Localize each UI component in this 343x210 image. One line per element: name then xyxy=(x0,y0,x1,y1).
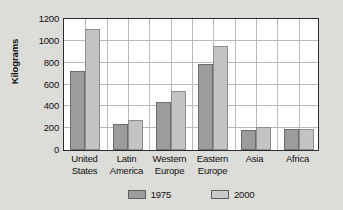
legend-label: 2000 xyxy=(234,189,254,200)
bar-asia-2000 xyxy=(256,127,271,150)
bar-latin-america-1975 xyxy=(113,124,128,150)
legend-label: 1975 xyxy=(151,189,171,200)
legend-item-2000[interactable]: 2000 xyxy=(211,189,254,200)
x-axis-label-line-2: Europe xyxy=(182,165,243,177)
bar-series-layer xyxy=(64,19,318,150)
legend-swatch-1975 xyxy=(128,190,146,199)
bar-united-states-1975 xyxy=(70,71,85,150)
y-axis-tick-label: 200 xyxy=(27,123,59,133)
bar-western-europe-2000 xyxy=(171,91,186,150)
y-axis-tick-labels: 120010008006004002000 xyxy=(25,0,59,210)
bar-latin-america-2000 xyxy=(128,120,143,150)
y-axis-title: Kilograms xyxy=(9,30,20,94)
y-axis-tick-label: 1000 xyxy=(27,36,59,46)
x-axis-label-line-1: Asia xyxy=(246,153,264,164)
x-axis-label-line-1: United xyxy=(71,153,97,164)
y-axis-tick-label: 800 xyxy=(27,58,59,68)
legend-swatch-2000 xyxy=(211,190,229,199)
chart-legend: 19752000 xyxy=(63,186,319,202)
x-axis-category-labels: UnitedStatesLatinAmericaWesternEuropeEas… xyxy=(63,153,319,181)
bar-united-states-2000 xyxy=(85,29,100,150)
x-axis-label-line-1: Africa xyxy=(286,153,309,164)
bar-eastern-europe-2000 xyxy=(213,46,228,150)
y-axis-tick-label: 600 xyxy=(27,80,59,90)
y-axis-tick-label: 400 xyxy=(27,101,59,111)
x-axis-label-line-1: Latin xyxy=(117,153,137,164)
bar-western-europe-1975 xyxy=(156,102,171,150)
bar-africa-1975 xyxy=(284,129,299,150)
bar-chart: Kilograms 120010008006004002000 UnitedSt… xyxy=(0,0,343,210)
legend-item-1975[interactable]: 1975 xyxy=(128,189,171,200)
plot-area xyxy=(63,18,319,151)
bar-asia-1975 xyxy=(241,130,256,150)
bar-eastern-europe-1975 xyxy=(198,64,213,150)
bar-africa-2000 xyxy=(299,129,314,150)
y-axis-tick-label: 1200 xyxy=(27,14,59,24)
x-axis-label-africa: Africa xyxy=(267,153,328,165)
